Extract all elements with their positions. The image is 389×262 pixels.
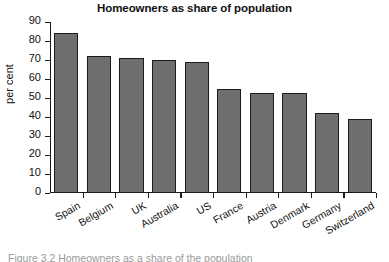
bar [87,56,111,193]
y-tick-label: 90 [29,14,41,26]
y-tick-mark [45,193,50,194]
y-tick-label: 40 [29,109,41,121]
x-tick-mark [180,193,181,198]
y-tick-mark [45,79,50,80]
chart-title: Homeowners as share of population [0,2,389,14]
y-tick-mark [45,155,50,156]
y-tick-label: 10 [29,166,41,178]
bar [152,60,176,193]
bar [282,93,306,193]
x-tick-label: Belgium [76,199,115,228]
y-tick-label: 50 [29,90,41,102]
y-tick-label: 80 [29,33,41,45]
y-tick-mark [45,98,50,99]
x-tick-mark [83,193,84,198]
x-tick-mark [278,193,279,198]
plot-area: 0102030405060708090 [50,22,376,193]
x-tick-label: US [194,199,213,217]
x-tick-mark [115,193,116,198]
x-tick-mark [343,193,344,198]
bar [119,58,143,193]
x-tick-mark [246,193,247,198]
y-tick-mark [45,41,50,42]
bar [348,119,372,193]
y-tick-mark [45,22,50,23]
y-tick-mark [45,117,50,118]
y-tick-label: 70 [29,52,41,64]
x-tick-label: UK [129,199,148,217]
x-tick-mark [376,193,377,198]
y-axis-line [50,22,51,193]
bar [217,89,241,194]
x-tick-mark [311,193,312,198]
bar [315,113,339,193]
bar [185,62,209,193]
x-tick-mark [213,193,214,198]
x-tick-mark [148,193,149,198]
y-tick-mark [45,136,50,137]
y-tick-mark [45,60,50,61]
y-axis-label: per cent [3,49,15,119]
y-tick-label: 0 [35,185,41,197]
chart-figure: Homeowners as share of population per ce… [0,0,389,262]
bar [250,93,274,193]
y-tick-label: 60 [29,71,41,83]
bar [54,33,78,193]
y-tick-label: 20 [29,147,41,159]
y-tick-mark [45,174,50,175]
x-tick-label: France [211,199,245,226]
figure-caption: Figure 3.2 Homeowners as a share of the … [8,252,389,262]
y-tick-label: 30 [29,128,41,140]
